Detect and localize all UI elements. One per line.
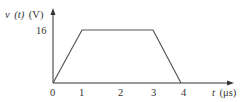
x-tick-2: 2 <box>118 87 123 98</box>
y-axis-label: v (t) (V) <box>5 9 44 21</box>
y-tick-16: 16 <box>36 25 47 36</box>
x-axis-label: t (μs) <box>212 87 237 99</box>
x-tick-1: 1 <box>79 87 84 98</box>
x-tick-4: 4 <box>181 87 187 98</box>
waveform-line <box>53 30 181 83</box>
voltage-waveform-chart: v (t) (V) 16 0 1 2 3 4 t (μs) <box>0 0 252 102</box>
x-axis-arrow-icon <box>227 81 234 86</box>
x-tick-3: 3 <box>151 87 156 98</box>
y-axis-arrow-icon <box>51 8 56 15</box>
x-tick-0: 0 <box>50 87 55 98</box>
